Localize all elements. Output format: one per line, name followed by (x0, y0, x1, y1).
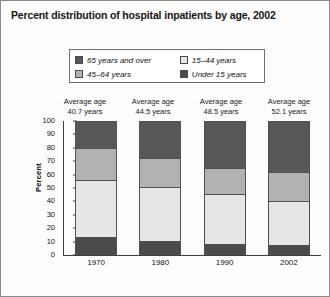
x-axis-tick-label: 1980 (128, 258, 192, 270)
average-age-caption: Average age (255, 97, 323, 107)
stacked-bar-2002[interactable] (268, 121, 310, 255)
average-age-caption: Average age (51, 97, 119, 107)
bar-segment[interactable] (269, 201, 309, 245)
x-axis-labels: 1970198019902002 (64, 258, 321, 270)
legend-label: 65 years and over (87, 56, 151, 65)
y-axis-tick-label: 90 (47, 131, 55, 139)
average-age-1970: Average age 40.7 years (51, 97, 119, 119)
y-axis-tick-label: 60 (47, 171, 55, 179)
y-axis-tick-label: 70 (47, 157, 55, 165)
average-age-1990: Average age 48.5 years (187, 97, 255, 119)
legend-item-65-and-over: 65 years and over (75, 56, 180, 65)
bar-segment[interactable] (269, 172, 309, 201)
legend-label: Under 15 years (192, 70, 247, 79)
bar-slot-1990 (193, 121, 257, 255)
bar-segment[interactable] (205, 168, 245, 194)
average-age-caption: Average age (119, 97, 187, 107)
bar-segment[interactable] (140, 241, 180, 254)
average-age-caption: Average age (187, 97, 255, 107)
legend-swatch-icon (75, 70, 83, 78)
bar-segment[interactable] (269, 122, 309, 172)
bar-group (64, 121, 321, 255)
legend-swatch-icon (75, 56, 83, 64)
bar-segment[interactable] (76, 237, 116, 254)
bar-slot-1980 (128, 121, 192, 255)
bar-segment[interactable] (76, 122, 116, 148)
x-axis-tick-label: 2002 (257, 258, 321, 270)
y-axis-tick-label: 80 (47, 144, 55, 152)
bar-segment[interactable] (140, 187, 180, 241)
legend-row: 45–64 years Under 15 years (75, 67, 259, 81)
chart-figure: Percent distribution of hospital inpatie… (0, 0, 330, 297)
page-title: Percent distribution of hospital inpatie… (11, 9, 323, 21)
average-age-value: 44.5 years (119, 107, 187, 117)
legend-label: 15–44 years (192, 56, 236, 65)
chart-legend: 65 years and over 15–44 years 45–64 year… (69, 49, 265, 83)
bar-segment[interactable] (76, 148, 116, 180)
average-age-value: 40.7 years (51, 107, 119, 117)
bar-segment[interactable] (205, 194, 245, 244)
average-age-value: 52.1 years (255, 107, 323, 117)
average-age-2002: Average age 52.1 years (255, 97, 323, 119)
legend-label: 45–64 years (87, 70, 131, 79)
y-axis-tick-label: 50 (47, 184, 55, 192)
legend-swatch-icon (180, 70, 188, 78)
bar-segment[interactable] (205, 244, 245, 254)
x-axis-tick-label: 1990 (193, 258, 257, 270)
bar-segment[interactable] (76, 180, 116, 237)
y-axis-tick-label: 20 (47, 224, 55, 232)
y-axis-tick-label: 10 (47, 238, 55, 246)
stacked-bar-1990[interactable] (204, 121, 246, 255)
x-axis-line (63, 255, 321, 256)
legend-row: 65 years and over 15–44 years (75, 53, 259, 67)
average-age-annotations: Average age 40.7 years Average age 44.5 … (51, 97, 323, 119)
bar-slot-2002 (257, 121, 321, 255)
bar-segment[interactable] (140, 122, 180, 158)
bar-segment[interactable] (269, 245, 309, 254)
stacked-bar-1980[interactable] (139, 121, 181, 255)
bar-segment[interactable] (205, 122, 245, 168)
legend-item-15-44: 15–44 years (180, 56, 259, 65)
average-age-1980: Average age 44.5 years (119, 97, 187, 119)
legend-swatch-icon (180, 56, 188, 64)
x-axis-tick-label: 1970 (64, 258, 128, 270)
legend-item-under-15: Under 15 years (180, 70, 259, 79)
average-age-value: 48.5 years (187, 107, 255, 117)
y-axis-tick-label: 0 (51, 251, 55, 259)
bar-segment[interactable] (140, 158, 180, 187)
legend-item-45-64: 45–64 years (75, 70, 180, 79)
y-axis-tick-label: 30 (47, 211, 55, 219)
plot-area: Percent 1009080706050403020100 197019801… (19, 121, 323, 271)
bar-slot-1970 (64, 121, 128, 255)
stacked-bar-1970[interactable] (75, 121, 117, 255)
y-axis-tick-label: 40 (47, 198, 55, 206)
y-axis-tick-label: 100 (42, 117, 55, 125)
y-axis-ticks: 1009080706050403020100 (33, 121, 59, 255)
